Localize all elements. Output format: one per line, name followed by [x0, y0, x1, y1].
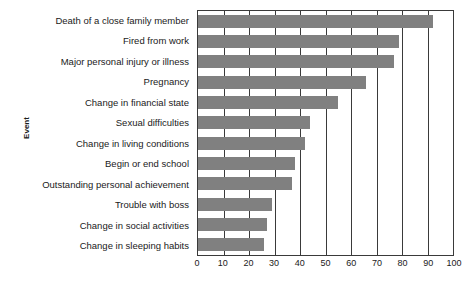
bar-row [198, 113, 453, 133]
x-tick-label: 50 [320, 258, 330, 268]
x-axis-tick-labels: 0102030405060708090100 [197, 258, 454, 274]
bar [198, 55, 394, 68]
category-label: Trouble with boss [115, 200, 189, 210]
x-tick-label: 90 [423, 258, 433, 268]
x-tick-label: 0 [194, 258, 199, 268]
category-label-row: Death of a close family member [10, 10, 193, 31]
category-label-row: Change in financial state [10, 92, 193, 113]
bar-row [198, 92, 453, 112]
category-label: Change in sleeping habits [80, 241, 189, 251]
category-label-row: Sexual difficulties [10, 113, 193, 134]
category-label-row: Begin or end school [10, 154, 193, 175]
bar-row [198, 52, 453, 72]
bar [198, 76, 366, 89]
x-tick-label: 40 [295, 258, 305, 268]
bar-row [198, 153, 453, 173]
bar [198, 35, 399, 48]
category-label: Change in social activities [80, 221, 189, 231]
bar [198, 218, 267, 231]
bar-row [198, 72, 453, 92]
bar-row [198, 133, 453, 153]
bar-row [198, 214, 453, 234]
bar-row [198, 11, 453, 31]
bar [198, 116, 310, 129]
category-label-row: Change in living conditions [10, 133, 193, 154]
category-label: Fired from work [123, 36, 189, 46]
category-label: Major personal injury or illness [61, 57, 189, 67]
plot-area [197, 10, 454, 256]
category-label: Death of a close family member [55, 16, 189, 26]
x-tick-label: 30 [269, 258, 279, 268]
category-label: Change in financial state [85, 98, 189, 108]
bar [198, 177, 292, 190]
category-label-row: Pregnancy [10, 72, 193, 93]
category-label-row: Outstanding personal achievement [10, 174, 193, 195]
x-tick-label: 20 [243, 258, 253, 268]
category-label-row: Change in social activities [10, 215, 193, 236]
bar [198, 198, 272, 211]
x-tick-label: 10 [218, 258, 228, 268]
category-label: Outstanding personal achievement [42, 180, 189, 190]
category-label-row: Fired from work [10, 31, 193, 52]
category-label: Begin or end school [105, 159, 189, 169]
category-label: Sexual difficulties [116, 118, 189, 128]
category-label: Pregnancy [144, 77, 189, 87]
bar-row [198, 174, 453, 194]
bar-series [198, 11, 453, 255]
bar-chart: Event Death of a close family memberFire… [0, 0, 468, 283]
bar [198, 15, 433, 28]
bar [198, 137, 305, 150]
x-tick-label: 60 [346, 258, 356, 268]
bar [198, 238, 264, 251]
x-tick-label: 70 [372, 258, 382, 268]
category-axis-labels: Death of a close family memberFired from… [10, 10, 193, 256]
bar-row [198, 235, 453, 255]
category-label: Change in living conditions [76, 139, 189, 149]
bar-row [198, 194, 453, 214]
x-tick-label: 80 [398, 258, 408, 268]
bar-row [198, 31, 453, 51]
category-label-row: Trouble with boss [10, 195, 193, 216]
bar [198, 157, 295, 170]
x-tick-label: 100 [446, 258, 461, 268]
category-label-row: Major personal injury or illness [10, 51, 193, 72]
bar [198, 96, 338, 109]
category-label-row: Change in sleeping habits [10, 236, 193, 257]
